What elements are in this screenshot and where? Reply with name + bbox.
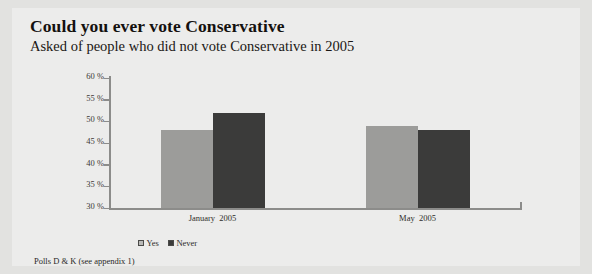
y-axis-tick-mark — [104, 121, 110, 123]
y-axis-tick-mark — [104, 99, 110, 101]
y-axis-tick-label: 55 % — [86, 93, 104, 103]
bar-never — [213, 113, 265, 208]
x-axis-line — [110, 208, 522, 210]
y-axis-tick-label: 40 % — [86, 158, 104, 168]
y-axis-tick-label: 50 % — [86, 114, 104, 124]
x-axis-end-tick — [520, 202, 522, 209]
legend-swatch-icon — [168, 240, 174, 246]
y-axis-tick-label: 60 % — [86, 71, 104, 81]
y-axis-tick-mark — [104, 208, 110, 210]
bar-yes — [161, 130, 213, 208]
y-axis-tick-label: 45 % — [86, 136, 104, 146]
y-axis-tick-label: 35 % — [86, 179, 104, 189]
legend-swatch-icon — [138, 240, 144, 246]
page-subtitle: Asked of people who did not vote Conserv… — [30, 38, 354, 55]
bar-chart: 60 %55 %50 %45 %40 %35 %30 % January 200… — [12, 60, 580, 266]
y-axis-tick-mark — [104, 164, 110, 166]
y-axis-tick-mark — [104, 186, 110, 188]
y-axis-tick-mark — [104, 143, 110, 145]
bar-never — [418, 130, 470, 208]
x-axis-label: May 2005 — [315, 213, 520, 223]
figure-panel: Could you ever vote Conservative Asked o… — [12, 8, 580, 266]
y-axis-tick-mark — [104, 78, 110, 80]
legend-item-never[interactable]: Never — [168, 238, 197, 248]
source-footnote: Polls D & K (see appendix 1) — [34, 256, 135, 266]
legend-label: Yes — [147, 238, 159, 248]
bar-yes — [366, 126, 418, 208]
page-title: Could you ever vote Conservative — [30, 16, 285, 37]
y-axis-tick-label: 30 % — [86, 201, 104, 211]
legend-item-yes[interactable]: Yes — [138, 238, 159, 248]
figure-container: Could you ever vote Conservative Asked o… — [0, 0, 592, 274]
legend-label: Never — [176, 238, 197, 248]
x-axis-label: January 2005 — [110, 213, 315, 223]
chart-legend: YesNever — [138, 238, 197, 248]
